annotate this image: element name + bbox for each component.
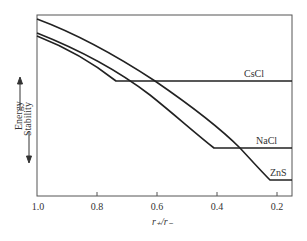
x-tick-label: 1.0 <box>32 201 45 212</box>
energy-vs-radius-ratio-diagram: Energy Stability CsCl NaCl ZnS 1.0 0.8 0… <box>0 0 307 241</box>
x-tick-label: 0.8 <box>91 201 104 212</box>
x-axis-title: r₊/r₋ <box>152 216 173 227</box>
x-ticks <box>97 192 277 196</box>
x-tick-label: 0.6 <box>151 201 164 212</box>
x-tick-label: 0.2 <box>271 201 284 212</box>
series-label-zns: ZnS <box>270 167 287 178</box>
x-tick-label: 0.4 <box>211 201 224 212</box>
nacl-curve <box>37 33 292 148</box>
series-label-nacl: NaCl <box>256 135 277 146</box>
stability-down-arrow-icon <box>27 132 32 163</box>
y-label-stability: Stability <box>22 102 33 136</box>
zns-curve <box>37 19 292 180</box>
series-label-cscl: CsCl <box>244 68 264 79</box>
plot-frame <box>37 15 292 196</box>
